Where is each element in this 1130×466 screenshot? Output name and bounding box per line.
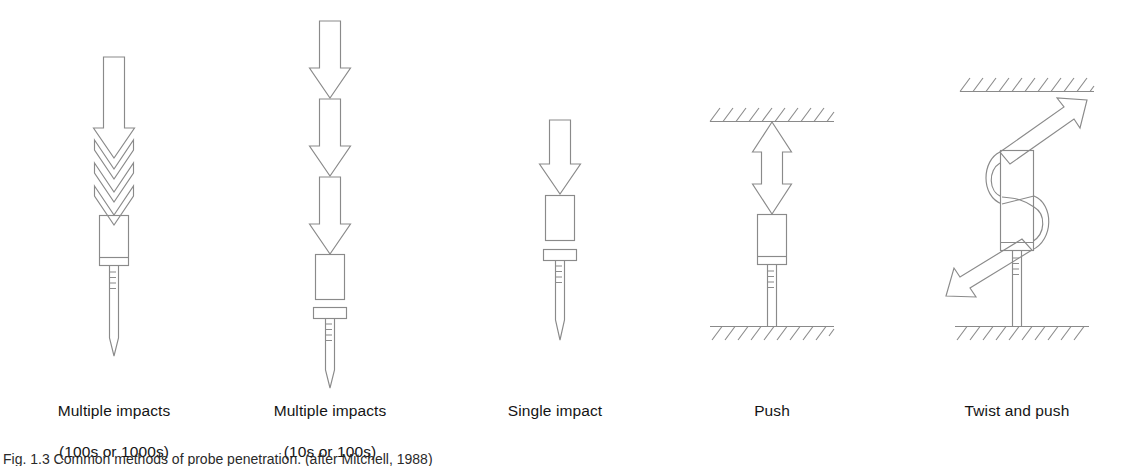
- figure-caption: Fig. 1.3 Common methods of probe penetra…: [3, 451, 1127, 466]
- diagram-single-impact: [460, 0, 650, 400]
- diagram-twist-and-push: [912, 0, 1122, 400]
- panel-label-single-impact: Single impact: [460, 381, 650, 422]
- anvil-plate: [544, 250, 577, 261]
- rod-graduations: [556, 266, 563, 283]
- panel-label-line-1: Twist and push: [965, 402, 1070, 419]
- panel-label-line-1: Multiple impacts: [58, 402, 171, 419]
- probe-rod: [110, 266, 119, 357]
- reaction-ceiling-hatching: [960, 78, 1094, 92]
- anvil-plate: [314, 308, 347, 319]
- ground-surface-hatching: [712, 327, 834, 341]
- probe-rod: [326, 319, 335, 389]
- rod-graduations: [326, 324, 333, 341]
- panel-single-impact: Single impact: [460, 0, 650, 466]
- panel-push: Push: [672, 0, 872, 466]
- probe-rod: [556, 261, 565, 341]
- panel-label-twist-and-push: Twist and push: [912, 381, 1122, 422]
- impact-arrow-icon: [310, 177, 351, 254]
- panel-multiple-impacts-low: Multiple impacts (10s or 100s): [230, 0, 430, 466]
- reaction-ceiling-hatching: [710, 108, 834, 122]
- rod-graduations: [768, 271, 775, 288]
- helix-back-lower: [1032, 196, 1049, 250]
- push-double-arrow-icon: [753, 122, 792, 214]
- impact-arrow-icon: [310, 21, 351, 98]
- panel-label-line-1: Single impact: [508, 402, 602, 419]
- impact-arrow-icon: [310, 99, 351, 176]
- diagram-multiple-impacts-high: [14, 0, 214, 400]
- diagram-multiple-impacts-low: [230, 0, 430, 400]
- panel-twist-and-push: Twist and push: [912, 0, 1122, 466]
- driver-body: [316, 255, 345, 300]
- impact-arrow-icon: [540, 120, 581, 194]
- impact-chevron-icon: [95, 140, 134, 179]
- probe-rod: [768, 265, 777, 328]
- diagram-push: [672, 0, 872, 400]
- driver-body: [546, 196, 575, 241]
- panel-label-line-1: Multiple impacts: [274, 402, 387, 419]
- probe-rod: [1013, 251, 1022, 328]
- figure-root: Multiple impacts (100s or 1000s): [0, 0, 1130, 466]
- impact-arrow-icon: [94, 57, 135, 158]
- panel-label-line-1: Push: [754, 402, 790, 419]
- panel-label-push: Push: [672, 381, 872, 422]
- ground-surface-hatching: [957, 327, 1084, 341]
- rod-graduations: [110, 272, 117, 289]
- panel-multiple-impacts-high: Multiple impacts (100s or 1000s): [14, 0, 214, 466]
